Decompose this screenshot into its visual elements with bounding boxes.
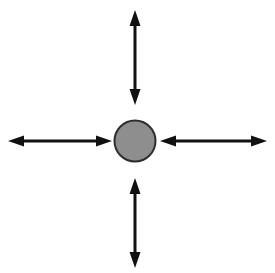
figure-canvas: Radial double-headed arrow diagram <box>0 0 275 273</box>
radial-arrow-diagram: Radial double-headed arrow diagram <box>0 0 275 273</box>
center-circle <box>115 121 156 162</box>
